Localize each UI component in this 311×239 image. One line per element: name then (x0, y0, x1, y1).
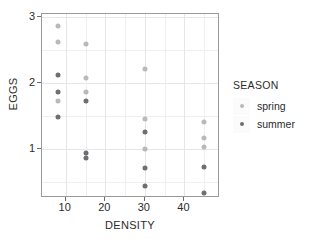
y-tick-label: 3 (29, 11, 35, 22)
data-point-spring (55, 40, 60, 45)
scatter-plot-figure: 123 EGGS 10203040 DENSITY SEASON springs… (0, 0, 311, 239)
data-point-spring (142, 146, 147, 151)
legend-row-summer[interactable]: summer (233, 115, 295, 133)
data-point-summer (83, 98, 88, 103)
legend-key-summer (233, 116, 250, 133)
y-tick-mark (37, 16, 41, 17)
data-point-summer (83, 155, 88, 160)
legend-items: springsummer (233, 97, 295, 133)
data-point-spring (83, 90, 88, 95)
legend-title: SEASON (233, 79, 295, 91)
data-point-summer (55, 90, 60, 95)
x-tick-label: 10 (59, 202, 71, 213)
legend-marker-icon (240, 122, 244, 126)
data-point-summer (202, 165, 207, 170)
x-tick-label: 40 (177, 202, 189, 213)
data-point-spring (83, 42, 88, 47)
data-point-spring (55, 23, 60, 28)
data-point-summer (55, 73, 60, 78)
data-point-spring (142, 116, 147, 121)
x-axis-label: DENSITY (0, 219, 260, 231)
data-point-summer (142, 165, 147, 170)
data-point-summer (142, 130, 147, 135)
data-point-spring (202, 135, 207, 140)
data-point-spring (55, 98, 60, 103)
data-point-summer (55, 114, 60, 119)
legend-row-spring[interactable]: spring (233, 97, 295, 115)
data-point-spring (202, 144, 207, 149)
data-point-summer (142, 184, 147, 189)
y-tick-label: 2 (29, 77, 35, 88)
x-tick-label: 20 (98, 202, 110, 213)
legend-label-summer: summer (257, 118, 295, 130)
plot-panel (41, 13, 219, 197)
y-axis-label: EGGS (7, 59, 19, 129)
legend: SEASON springsummer (233, 79, 295, 133)
data-point-layer (42, 14, 218, 196)
data-point-summer (202, 191, 207, 196)
y-tick-mark (37, 148, 41, 149)
data-point-spring (83, 76, 88, 81)
data-point-spring (142, 66, 147, 71)
x-tick-label: 30 (138, 202, 150, 213)
legend-key-spring (233, 98, 250, 115)
data-point-spring (202, 120, 207, 125)
y-tick-mark (37, 82, 41, 83)
y-tick-label: 1 (29, 142, 35, 153)
legend-marker-icon (240, 104, 244, 108)
legend-label-spring: spring (257, 100, 286, 112)
